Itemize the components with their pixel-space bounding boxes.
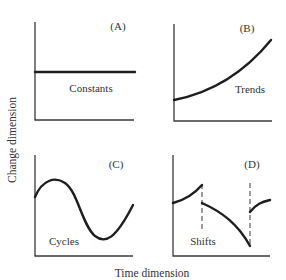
panel-d-segment-3: [250, 200, 270, 212]
panel-d-shifts: (D) Shifts: [173, 155, 270, 256]
panel-c-label: Cycles: [49, 235, 79, 247]
panel-a-constants: (A) Constants: [35, 20, 135, 120]
change-patterns-diagram: Change dimension Time dimension (A) Cons…: [0, 0, 286, 280]
panel-d-tag: (D): [244, 158, 260, 171]
panel-d-label: Shifts: [190, 235, 216, 247]
panel-c-tag: (C): [109, 158, 124, 171]
panel-d-segment-1: [173, 185, 202, 203]
panel-a-label: Constants: [69, 82, 112, 94]
panel-b-axes: [174, 24, 272, 121]
panel-b-tag: (B): [240, 22, 255, 35]
panel-a-tag: (A): [110, 20, 126, 33]
panel-c-cycles: (C) Cycles: [35, 155, 133, 256]
panel-b-trends: (B) Trends: [174, 22, 272, 121]
panel-c-cycle-curve: [35, 180, 133, 240]
x-axis-label: Time dimension: [115, 267, 190, 279]
panel-b-label: Trends: [235, 83, 265, 95]
y-axis-label: Change dimension: [6, 97, 19, 183]
